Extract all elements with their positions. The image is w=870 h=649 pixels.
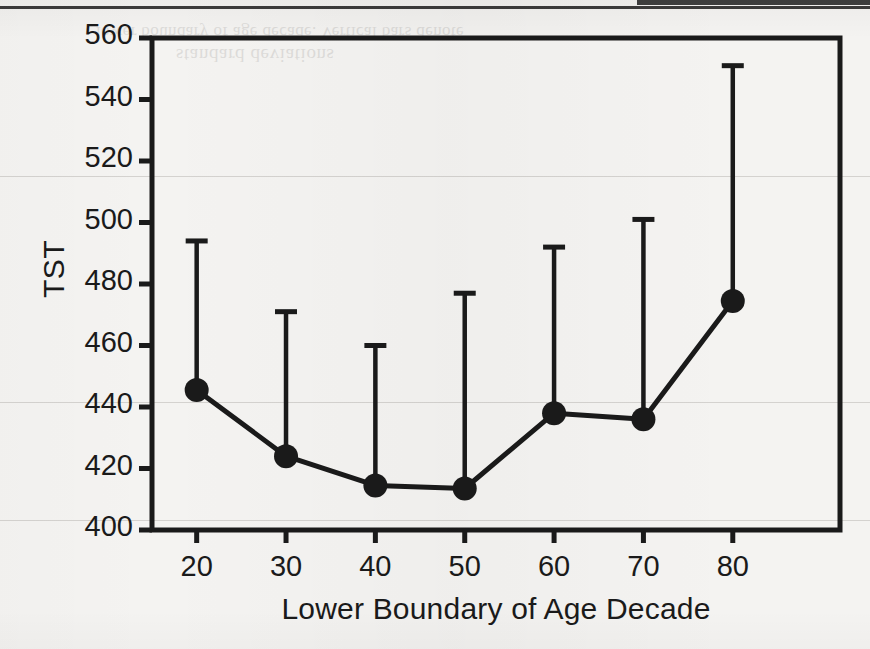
y-tick-label: 520 — [43, 141, 133, 174]
y-tick-label: 420 — [43, 449, 133, 482]
x-tick-label: 30 — [251, 550, 321, 583]
x-tick-label: 80 — [698, 550, 768, 583]
y-tick-label: 480 — [43, 264, 133, 297]
y-tick-label: 460 — [43, 326, 133, 359]
y-tick-label: 400 — [43, 510, 133, 543]
x-axis-label: Lower Boundary of Age Decade — [152, 592, 840, 626]
y-tick-label: 440 — [43, 387, 133, 420]
x-tick-label: 20 — [162, 550, 232, 583]
x-tick-label: 70 — [608, 550, 678, 583]
chart-figure: TST Lower Boundary of Age Decade 4004204… — [0, 0, 870, 649]
plot-frame — [152, 38, 840, 530]
y-tick-label: 560 — [43, 18, 133, 51]
y-tick-label: 540 — [43, 80, 133, 113]
x-tick-label: 50 — [430, 550, 500, 583]
error-bars — [186, 66, 744, 489]
x-tick-label: 40 — [340, 550, 410, 583]
y-tick-label: 500 — [43, 203, 133, 236]
x-tick-label: 60 — [519, 550, 589, 583]
